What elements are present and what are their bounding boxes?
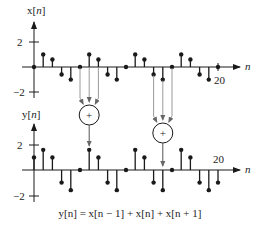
stem-n0: [32, 155, 36, 170]
x-tick-label-20: 20: [214, 74, 226, 86]
stem-n16: [179, 148, 183, 170]
stem-n4: [69, 67, 73, 82]
stem-marker: [50, 155, 54, 159]
stem-marker: [59, 72, 63, 76]
stem-marker: [197, 180, 201, 184]
stem-plots-canvas: x[n] 2 −2 n 20 ++ y[n] 2 −2 n 20: [0, 0, 260, 236]
stem-marker: [96, 57, 100, 61]
stem-marker: [133, 52, 137, 56]
stem-marker: [69, 188, 73, 192]
difference-equation: y[n] = x[n − 1] + x[n] + x[n + 1]: [0, 207, 260, 219]
adder-n6: +: [79, 68, 99, 146]
stem-marker: [216, 180, 220, 184]
stem-n17: [188, 57, 192, 67]
stem-n14: [161, 67, 165, 82]
stem-n7: [96, 155, 100, 170]
stem-n4: [69, 170, 73, 192]
stem-n8: [105, 67, 109, 77]
stem-marker: [207, 77, 211, 81]
stem-n5: [78, 168, 82, 172]
stem-n9: [115, 67, 119, 82]
stem-marker: [151, 180, 155, 184]
y-tick-label-20: 20: [213, 153, 225, 165]
y-signal-plot: y[n] 2 −2 n 20: [13, 108, 251, 202]
stem-marker: [124, 168, 128, 172]
stem-marker: [96, 155, 100, 159]
x-tick-label-pos2: 2: [17, 36, 23, 48]
stem-marker: [32, 65, 36, 69]
stem-marker: [133, 148, 137, 152]
stem-n19: [207, 170, 211, 192]
stem-marker: [59, 180, 63, 184]
stem-n15: [170, 168, 174, 172]
stem-marker: [115, 188, 119, 192]
y-tick-label-pos2: 2: [17, 139, 23, 151]
stem-marker: [50, 57, 54, 61]
stem-marker: [188, 57, 192, 61]
stem-n2: [50, 57, 54, 67]
y-tick-label-neg2: −2: [13, 190, 25, 202]
stem-n7: [96, 57, 100, 67]
stem-n18: [197, 170, 201, 185]
stem-n6: [87, 148, 91, 170]
stem-marker: [179, 148, 183, 152]
x-signal-label: x[n]: [27, 4, 45, 16]
stem-marker: [87, 148, 91, 152]
adder-n14: +: [153, 68, 173, 166]
stem-marker: [69, 77, 73, 81]
stem-n3: [59, 170, 63, 185]
stem-marker: [32, 155, 36, 159]
stem-n18: [197, 67, 201, 77]
stem-n11: [133, 148, 137, 170]
stem-n20: [216, 170, 220, 185]
stem-marker: [41, 52, 45, 56]
stem-n8: [105, 170, 109, 185]
x-tick-label-neg2: −2: [13, 86, 25, 98]
stem-marker: [87, 52, 91, 56]
y-axis-var-label: n: [245, 163, 251, 175]
stem-marker: [115, 77, 119, 81]
stem-n0: [32, 65, 36, 69]
stem-marker: [179, 52, 183, 56]
stem-n12: [142, 155, 146, 170]
stem-n6: [87, 52, 91, 67]
stem-n2: [50, 155, 54, 170]
stem-n10: [124, 65, 128, 69]
stem-n14: [161, 170, 165, 192]
adder-input-line: [169, 68, 172, 122]
stem-marker: [197, 72, 201, 76]
stem-marker: [142, 155, 146, 159]
stem-n17: [188, 155, 192, 170]
stem-n1: [41, 52, 45, 67]
stem-marker: [207, 188, 211, 192]
stem-marker: [105, 72, 109, 76]
stem-n16: [179, 52, 183, 67]
adder-input-line: [80, 68, 83, 104]
adder-input-line: [95, 68, 98, 104]
stem-n3: [59, 67, 63, 77]
x-axis-var-label: n: [245, 60, 251, 72]
stem-marker: [216, 65, 220, 69]
stem-marker: [188, 155, 192, 159]
stem-n1: [41, 148, 45, 170]
stem-marker: [142, 57, 146, 61]
stem-n9: [115, 170, 119, 192]
stem-n20: [216, 65, 220, 69]
stem-marker: [78, 168, 82, 172]
stem-n13: [151, 67, 155, 77]
x-signal-plot: x[n] 2 −2 n 20: [13, 4, 251, 98]
stem-n13: [151, 170, 155, 185]
adders: ++: [79, 68, 173, 166]
stem-marker: [161, 188, 165, 192]
adder-input-line: [154, 76, 157, 122]
plus-icon: +: [160, 127, 166, 139]
plus-icon: +: [86, 109, 92, 121]
stem-marker: [41, 148, 45, 152]
stem-n19: [207, 67, 211, 82]
stem-marker: [170, 168, 174, 172]
stem-marker: [105, 180, 109, 184]
y-signal-label: y[n]: [22, 108, 40, 120]
stem-n12: [142, 57, 146, 67]
stem-n10: [124, 168, 128, 172]
moving-sum-diagram: x[n] 2 −2 n 20 ++ y[n] 2 −2 n 20: [0, 0, 260, 236]
